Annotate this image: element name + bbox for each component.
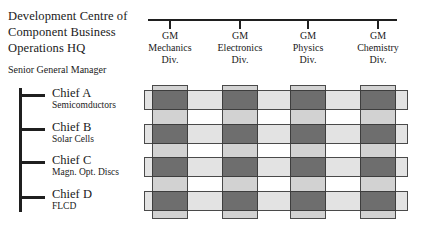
chief-bracket-spine [19, 88, 22, 212]
matrix-cell-b-chemistry[interactable] [360, 124, 396, 144]
chief-unit: Magn. Opt. Discs [52, 167, 144, 179]
hq-title: Development Centre of Component Business… [8, 8, 148, 56]
matrix-cell-c-chemistry[interactable] [360, 157, 396, 177]
chief-bracket-arm-3 [19, 161, 45, 164]
gm-division-label: Electronics [203, 42, 277, 54]
gm-role-label: GM [133, 30, 207, 42]
chief-name: Chief C [52, 153, 144, 167]
gm-division-suffix-label: Div. [341, 54, 415, 66]
matrix-cell-b-electronics[interactable] [222, 124, 258, 144]
matrix-cell-c-physics[interactable] [290, 157, 326, 177]
chief-name: Chief D [52, 187, 144, 201]
chief-unit: FLCD [52, 201, 144, 213]
gm-division-label: Physics [271, 42, 345, 54]
gm-header-electronics[interactable]: GMElectronicsDiv. [203, 30, 277, 67]
hq-title-line-1: Development Centre of [8, 8, 148, 24]
matrix-cell-b-physics[interactable] [290, 124, 326, 144]
chief-label-d[interactable]: Chief DFLCD [52, 187, 144, 213]
matrix-cell-d-physics[interactable] [290, 191, 326, 211]
hq-title-line-3: Operations HQ [8, 40, 148, 56]
matrix-cell-a-physics[interactable] [290, 90, 326, 110]
gm-division-suffix-label: Div. [133, 54, 207, 66]
column-connector-stub-4 [377, 19, 379, 29]
chief-name: Chief A [52, 86, 144, 100]
gm-division-label: Chemistry [341, 42, 415, 54]
column-connector-stub-1 [169, 19, 171, 29]
chief-label-c[interactable]: Chief CMagn. Opt. Discs [52, 153, 144, 179]
hq-title-line-2: Component Business [8, 24, 148, 40]
matrix-cell-d-mechanics[interactable] [152, 191, 188, 211]
gm-division-label: Mechanics [133, 42, 207, 54]
matrix-cell-d-chemistry[interactable] [360, 191, 396, 211]
matrix-organization-chart: Development Centre of Component Business… [0, 0, 428, 232]
chief-bracket-arm-4 [19, 196, 45, 199]
chief-name: Chief B [52, 120, 144, 134]
chief-bracket-arm-2 [19, 128, 45, 131]
matrix-cell-a-mechanics[interactable] [152, 90, 188, 110]
matrix-cell-c-electronics[interactable] [222, 157, 258, 177]
gm-role-label: GM [203, 30, 277, 42]
matrix-cell-a-electronics[interactable] [222, 90, 258, 110]
gm-header-physics[interactable]: GMPhysicsDiv. [271, 30, 345, 67]
matrix-cell-c-mechanics[interactable] [152, 157, 188, 177]
gm-role-label: GM [341, 30, 415, 42]
gm-role-label: GM [271, 30, 345, 42]
column-connector-stub-2 [239, 19, 241, 29]
gm-division-suffix-label: Div. [203, 54, 277, 66]
chief-label-b[interactable]: Chief BSolar Cells [52, 120, 144, 146]
matrix-cell-d-electronics[interactable] [222, 191, 258, 211]
matrix-cell-a-chemistry[interactable] [360, 90, 396, 110]
senior-general-manager-label: Senior General Manager [8, 64, 106, 76]
gm-header-chemistry[interactable]: GMChemistryDiv. [341, 30, 415, 67]
matrix-cell-b-mechanics[interactable] [152, 124, 188, 144]
chief-unit: Semicomductors [52, 100, 144, 112]
chief-label-a[interactable]: Chief ASemicomductors [52, 86, 144, 112]
chief-bracket-arm-1 [19, 94, 45, 97]
gm-division-suffix-label: Div. [271, 54, 345, 66]
gm-header-mechanics[interactable]: GMMechanicsDiv. [133, 30, 207, 67]
column-connector-stub-3 [307, 19, 309, 29]
chief-unit: Solar Cells [52, 134, 144, 146]
top-connector-rail [148, 19, 397, 21]
